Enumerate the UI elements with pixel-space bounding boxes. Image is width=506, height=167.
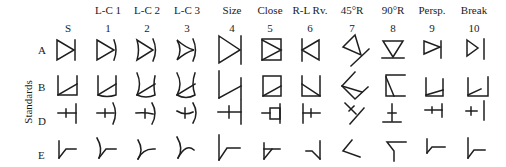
glyph-e-1-icon <box>97 138 116 158</box>
glyph-a-7-icon <box>343 35 369 66</box>
glyph-b-3-icon <box>177 73 195 98</box>
glyph-b-4-icon <box>219 71 241 99</box>
glyph-e-4-icon <box>219 135 240 160</box>
glyph-d-1-icon <box>97 103 116 124</box>
glyph-e-2-icon <box>138 140 155 159</box>
glyph-d-5-icon <box>262 104 280 123</box>
glyph-a-8-icon <box>382 41 404 58</box>
glyph-d-4-icon <box>218 100 241 124</box>
glyph-d-6-icon <box>303 104 320 123</box>
glyph-b-7-icon <box>342 72 368 99</box>
glyph-a-5-icon <box>262 39 281 60</box>
glyph-a-10-icon <box>467 39 484 59</box>
glyph-e-10-icon <box>468 138 485 158</box>
glyph-e-3-icon <box>177 137 194 158</box>
glyph-e-5-icon <box>264 143 280 159</box>
glyph-d-8-icon <box>383 104 401 122</box>
glyph-a-4-icon <box>219 36 241 64</box>
glyph-b-8-icon <box>386 75 405 96</box>
glyph-d-3-icon <box>177 103 196 123</box>
glyph-b-1-icon <box>98 76 116 97</box>
glyph-d-10-icon <box>466 101 484 120</box>
glyph-b-10-icon <box>468 77 488 96</box>
glyph-d-9-icon <box>425 104 442 117</box>
glyph-a-3-icon <box>177 39 196 61</box>
glyph-b-2-icon <box>137 73 155 97</box>
glyph-b-5-icon <box>263 76 281 96</box>
stimulus-glyph-grid <box>0 0 506 167</box>
glyph-b-9-icon <box>426 78 443 96</box>
glyph-a-2-icon <box>137 39 156 61</box>
glyph-d-2-icon <box>136 103 155 124</box>
glyph-a-s-icon <box>57 40 75 60</box>
glyph-e-9-icon <box>427 139 445 153</box>
glyph-d-7-icon <box>345 103 364 124</box>
glyph-a-6-icon <box>302 39 319 61</box>
glyph-b-s-icon <box>58 76 77 95</box>
glyph-e-s-icon <box>59 141 76 158</box>
glyph-a-9-icon <box>424 41 441 58</box>
glyph-b-6-icon <box>302 76 320 96</box>
glyph-e-8-icon <box>387 142 406 161</box>
glyph-d-s-icon <box>58 104 76 123</box>
glyph-a-1-icon <box>97 40 116 60</box>
glyph-e-6-icon <box>306 141 320 159</box>
glyph-e-7-icon <box>343 140 360 157</box>
